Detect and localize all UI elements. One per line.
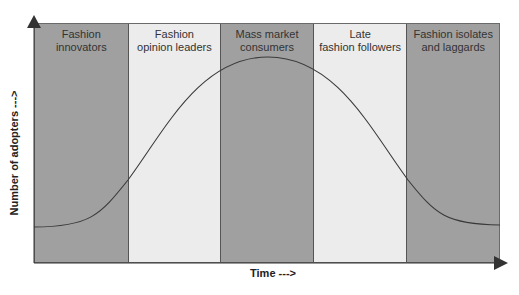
x-axis-arrow-icon <box>494 256 508 270</box>
y-axis-label: Number of adopters ---> <box>8 91 20 216</box>
adoption-curve <box>34 57 500 227</box>
curve-and-axes <box>0 0 519 295</box>
y-axis-arrow-icon <box>27 15 41 28</box>
x-axis-label: Time ---> <box>250 267 296 279</box>
